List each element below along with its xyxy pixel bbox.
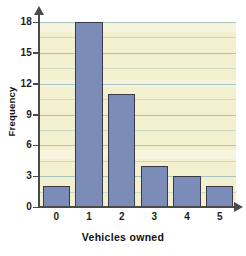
y-tick-label: 18	[20, 17, 32, 27]
plot-area	[40, 22, 236, 207]
x-tick-label: 1	[79, 211, 99, 222]
y-tick-label: 9	[26, 110, 32, 120]
x-tick-label: 2	[112, 211, 132, 222]
y-tick-mark	[33, 207, 39, 209]
bars-layer	[40, 22, 236, 207]
bar-chart-figure: 0369121518 012345 Frequency Vehicles own…	[0, 0, 246, 256]
x-axis-arrowhead-icon	[234, 202, 243, 212]
x-tick-label: 5	[210, 211, 230, 222]
y-tick-label: 6	[26, 140, 32, 150]
x-axis-line	[38, 206, 236, 208]
bar	[141, 166, 168, 207]
y-tick-label: 0	[26, 202, 32, 212]
y-tick-label: 3	[26, 171, 32, 181]
y-tick-mark	[33, 145, 39, 147]
x-tick-label: 0	[46, 211, 66, 222]
bar	[108, 94, 135, 207]
y-tick-mark	[33, 114, 39, 116]
bar	[206, 186, 233, 207]
x-tick-label: 4	[177, 211, 197, 222]
y-tick-mark	[33, 176, 39, 178]
x-tick-label: 3	[144, 211, 164, 222]
y-tick-label: 15	[20, 48, 32, 58]
y-axis-title: Frequency	[6, 72, 17, 152]
bar	[75, 22, 102, 207]
y-tick-label: 12	[20, 79, 32, 89]
bar	[173, 176, 200, 207]
y-tick-mark	[33, 83, 39, 85]
bar	[43, 186, 70, 207]
y-tick-mark	[33, 52, 39, 54]
y-axis-line	[38, 14, 40, 208]
y-tick-mark	[33, 22, 39, 24]
x-axis-title: Vehicles owned	[0, 231, 246, 243]
y-axis-arrowhead-icon	[34, 6, 44, 15]
